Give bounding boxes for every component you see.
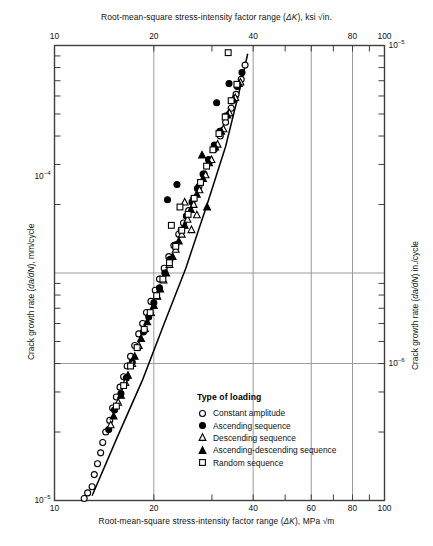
legend-entry-open-square[interactable]: Random sequence [197,457,357,469]
data-point-open-square [128,363,134,369]
legend-entry-label: Ascending-descending sequence [213,445,336,455]
data-point-open-circle [100,439,106,445]
legend-entry-label: Constant amplitude [213,408,285,418]
legend-rows: Constant amplitudeAscending sequenceDesc… [197,407,357,469]
data-point-open-square [154,293,160,299]
data-point-open-triangle [188,226,195,233]
data-point-filled-circle [164,197,170,203]
open-triangle-icon [197,432,213,443]
data-point-open-circle [89,484,95,490]
data-point-open-square [179,227,185,233]
legend: Type of loading Constant amplitudeAscend… [197,392,357,469]
legend-entry-filled-circle[interactable]: Ascending sequence [197,419,357,431]
data-point-filled-circle [214,100,220,106]
data-point-open-circle [98,450,104,456]
data-point-open-square [167,260,173,266]
data-point-open-square [204,163,210,169]
data-point-open-circle [242,62,248,68]
data-point-open-triangle [199,434,206,441]
legend-entry-label: Ascending sequence [213,421,291,431]
data-point-open-square [228,98,234,104]
data-point-open-circle [85,490,91,496]
data-point-open-circle [81,496,87,502]
legend-entry-filled-triangle[interactable]: Ascending-descending sequence [197,444,357,456]
data-point-filled-triangle [199,447,206,454]
legend-entry-open-triangle[interactable]: Descending sequence [197,432,357,444]
data-point-open-square [185,211,191,217]
data-point-filled-circle [226,81,232,87]
data-point-open-square [160,276,166,282]
legend-entry-label: Descending sequence [213,433,296,443]
data-point-open-square [134,345,140,351]
data-point-open-square [147,310,153,316]
open-circle-icon [197,408,213,419]
data-point-open-square [200,460,206,466]
data-point-open-square [234,81,240,87]
legend-entry-open-circle[interactable]: Constant amplitude [197,407,357,419]
data-point-open-square [113,403,119,409]
filled-circle-icon [197,420,213,431]
data-point-open-circle [91,472,97,478]
data-point-open-square [222,114,228,120]
data-point-filled-triangle [110,412,117,419]
data-point-filled-circle [200,423,206,429]
data-point-open-square [177,204,183,210]
data-point-filled-circle [174,181,180,187]
open-square-icon [197,457,213,468]
data-point-open-circle [95,461,101,467]
data-point-open-circle [200,410,206,416]
data-point-open-square [198,180,204,186]
filled-triangle-icon [197,445,213,456]
data-point-open-square [216,131,222,137]
data-point-open-square [191,195,197,201]
legend-title: Type of loading [197,392,357,402]
data-point-open-square [121,383,127,389]
data-point-filled-triangle [204,203,211,210]
data-point-filled-circle [239,70,245,76]
data-point-open-square [168,222,174,228]
data-point-open-square [210,147,216,153]
data-point-open-square [141,327,147,333]
data-point-open-square [225,50,231,56]
legend-entry-label: Random sequence [213,458,283,468]
fatigue-crack-growth-chart: Root-mean-square stress-intensity factor… [0,0,433,546]
data-point-filled-triangle [199,151,206,158]
data-point-open-square [173,243,179,249]
